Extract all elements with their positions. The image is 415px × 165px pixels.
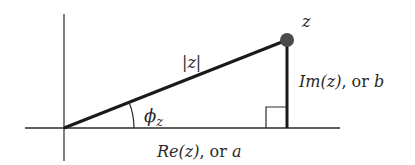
modulus-label: |z| bbox=[182, 53, 201, 72]
angle-symbol: ϕ bbox=[144, 105, 156, 126]
angle-arc bbox=[129, 102, 134, 128]
point-z-label: z bbox=[301, 12, 311, 31]
modulus-vector bbox=[64, 40, 287, 128]
real-prefix: Re(z) bbox=[156, 142, 199, 161]
right-angle-marker bbox=[266, 107, 287, 128]
real-part-label: Re(z), or a bbox=[156, 142, 242, 161]
angle-subscript: z bbox=[155, 114, 163, 129]
imag-var: b bbox=[374, 72, 384, 91]
point-z-dot bbox=[280, 33, 294, 47]
imag-prefix: Im(z) bbox=[298, 72, 341, 91]
imag-suffix: , or bbox=[341, 72, 374, 91]
complex-plane-diagram: z |z| ϕz Im(z), or b Re(z), or a bbox=[0, 0, 415, 165]
real-suffix: , or bbox=[199, 142, 232, 161]
angle-label: ϕz bbox=[144, 105, 163, 129]
imaginary-part-label: Im(z), or b bbox=[298, 72, 384, 91]
real-var: a bbox=[232, 142, 242, 161]
